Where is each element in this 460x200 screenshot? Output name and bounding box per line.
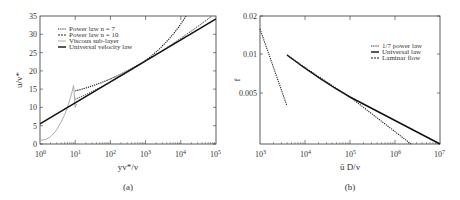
y-tick-label: 30: [29, 30, 37, 39]
x-tick-label: 103: [140, 149, 151, 159]
plot-frame-b: [260, 16, 440, 144]
series-universal-velocity-law: [40, 19, 216, 124]
caption-a: (a): [123, 182, 133, 192]
caption-b: (b): [345, 182, 356, 192]
series-1-7-power-law: [287, 55, 411, 144]
legend-b: 1/7 power law Universal law Laminar flow: [371, 42, 423, 62]
x-tick-label: 101: [70, 149, 81, 159]
y-tick-label: 10: [29, 103, 37, 112]
y-tick-label: 5: [33, 122, 37, 131]
x-tick-label: 106: [390, 149, 401, 159]
x-tick-label: 102: [105, 149, 116, 159]
x-tick-label: 105: [345, 149, 356, 159]
x-tick-labels-a: 100 101 102 103 104 105: [35, 149, 221, 159]
y-tick-label: 35: [29, 12, 37, 21]
y-tick-label: 0.01: [243, 50, 257, 59]
legend-a: Power law n = 7 Power law n = 10 Viscous…: [58, 25, 133, 51]
legend-item: Laminar flow: [382, 54, 421, 62]
series-universal-law: [287, 55, 440, 144]
x-tick-labels-b: 103 104 105 106 107: [255, 149, 445, 159]
y-tick-labels-a: 0 5 10 15 20 25 30 35: [29, 12, 37, 149]
y-tick-label: 0.02: [243, 12, 257, 21]
x-tick-label: 104: [300, 149, 311, 159]
figure: 0 5 10 15 20 25 30 35 100 101 102 103 10…: [0, 0, 460, 200]
x-axis-label-a: yv*/v: [118, 162, 139, 172]
legend-item: Universal velocity law: [69, 43, 133, 51]
x-tick-label: 107: [434, 149, 445, 159]
panel-a: 0 5 10 15 20 25 30 35 100 101 102 103 10…: [14, 12, 221, 192]
x-tick-label: 100: [35, 149, 46, 159]
y-tick-labels-b: 0.02 0.01 0.005: [239, 12, 257, 98]
y-tick-label: 15: [29, 85, 37, 94]
series-laminar-flow: [260, 29, 287, 106]
y-tick-label: 0.005: [239, 89, 257, 98]
x-axis-label-b: ū D/v: [340, 162, 361, 172]
y-axis-label-b: f: [232, 79, 242, 82]
x-ticks-b: [274, 16, 438, 144]
panel-b: 0.02 0.01 0.005 103 104 105 106 107 ū D/…: [232, 12, 445, 192]
x-tick-label: 103: [255, 149, 266, 159]
x-tick-label: 105: [210, 149, 221, 159]
x-tick-label: 104: [175, 149, 186, 159]
y-tick-label: 0: [33, 140, 37, 149]
y-tick-label: 20: [29, 67, 37, 76]
y-tick-label: 25: [29, 49, 37, 58]
y-axis-label-a: u/v*: [14, 72, 24, 89]
